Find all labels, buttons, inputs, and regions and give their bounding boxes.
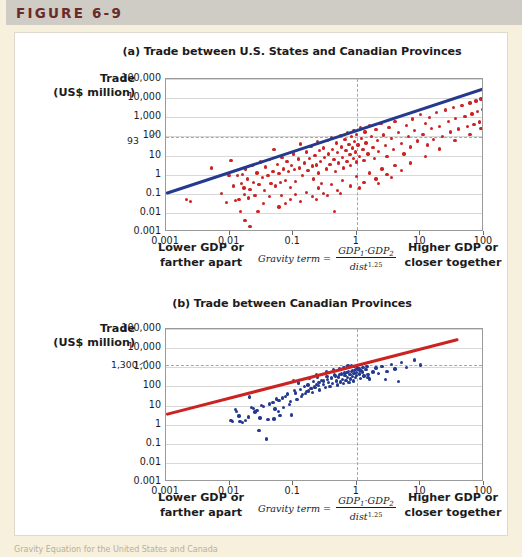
scatter-point xyxy=(362,159,365,162)
scatter-point xyxy=(220,192,223,195)
scatter-point xyxy=(284,202,287,205)
scatter-point xyxy=(243,219,246,222)
gridline xyxy=(166,348,482,349)
scatter-point xyxy=(374,177,377,180)
scatter-point xyxy=(400,142,403,145)
scatter-point xyxy=(324,386,327,389)
lower-label-line2: farther apart xyxy=(143,506,259,521)
scatter-point xyxy=(416,139,419,142)
scatter-point xyxy=(189,200,192,203)
scatter-point xyxy=(332,158,335,161)
scatter-point xyxy=(347,143,350,146)
scatter-point xyxy=(303,161,306,164)
scatter-point xyxy=(476,110,479,113)
scatter-point xyxy=(326,194,329,197)
panel-b-lower-label: Lower GDP or farther apart xyxy=(143,491,259,520)
x-tick-mark xyxy=(483,231,484,235)
scatter-point xyxy=(355,175,358,178)
scatter-point xyxy=(421,133,424,136)
scatter-point xyxy=(468,101,471,104)
scatter-point xyxy=(185,198,188,201)
gravity-denominator: dist1.25 xyxy=(350,260,383,272)
scatter-point xyxy=(352,379,355,382)
scatter-point xyxy=(349,184,352,187)
scatter-point xyxy=(338,373,341,376)
scatter-point xyxy=(306,383,309,386)
scatter-point xyxy=(426,143,429,146)
scatter-point xyxy=(337,161,340,164)
scatter-point xyxy=(360,137,363,140)
scatter-point xyxy=(342,166,345,169)
scatter-point xyxy=(392,148,395,151)
scatter-point xyxy=(257,429,260,432)
higher-label-line2: closer together xyxy=(393,256,513,271)
scatter-point xyxy=(430,127,433,130)
panel-a: (a) Trade between U.S. States and Canadi… xyxy=(15,33,509,285)
scatter-point xyxy=(393,164,396,167)
scatter-point xyxy=(247,415,250,418)
scatter-point xyxy=(278,414,281,417)
scatter-point xyxy=(268,195,271,198)
scatter-point xyxy=(478,120,481,123)
scatter-point xyxy=(261,176,264,179)
scatter-point xyxy=(400,169,403,172)
regression-line xyxy=(166,88,483,196)
dist-text: dist xyxy=(350,511,368,522)
scatter-point xyxy=(348,153,351,156)
panel-a-higher-label: Higher GDP or closer together xyxy=(393,241,513,270)
scatter-point xyxy=(470,112,473,115)
scatter-point xyxy=(385,173,388,176)
scatter-point xyxy=(334,374,337,377)
scatter-point xyxy=(279,181,282,184)
scatter-point xyxy=(363,130,366,133)
x-tick-mark xyxy=(356,231,357,235)
gridline xyxy=(166,79,482,80)
scatter-point xyxy=(284,179,287,182)
scatter-point xyxy=(457,127,460,130)
scatter-point xyxy=(285,160,288,163)
scatter-point xyxy=(390,137,393,140)
scatter-point xyxy=(244,419,247,422)
gridline xyxy=(166,329,482,330)
gravity-term-label: Gravity term xyxy=(258,253,320,264)
higher-label-line1: Higher GDP or xyxy=(393,241,513,256)
scatter-point xyxy=(277,399,280,402)
gravity-denominator: dist1.25 xyxy=(350,510,383,522)
scatter-point xyxy=(479,127,482,130)
panel-a-lower-label: Lower GDP or farther apart xyxy=(143,241,259,270)
panel-b-caption-row: Lower GDP or farther apart Gravity term … xyxy=(15,491,509,531)
lower-label-line2: farther apart xyxy=(143,256,259,271)
gridline xyxy=(166,406,482,407)
scatter-point xyxy=(428,116,431,119)
scatter-point xyxy=(331,382,334,385)
x-tick-mark xyxy=(483,481,484,485)
scatter-point xyxy=(366,376,369,379)
y-tick-label: 100,000 xyxy=(101,73,161,83)
scatter-point xyxy=(289,198,292,201)
scatter-point xyxy=(377,182,380,185)
scatter-point xyxy=(344,149,347,152)
x-tick-mark xyxy=(229,231,230,235)
scatter-point xyxy=(322,379,325,382)
gravity-equals-sign: = xyxy=(323,253,331,264)
scatter-point xyxy=(447,120,450,123)
panel-b: (b) Trade between Canadian Provinces Tra… xyxy=(15,285,509,537)
scatter-point xyxy=(272,148,275,151)
y-annotation-value: 1,300 xyxy=(111,359,138,370)
higher-label-line2: closer together xyxy=(393,506,513,521)
y-tick-label: 10,000 xyxy=(101,92,161,102)
scatter-point xyxy=(402,152,405,155)
scatter-point xyxy=(358,155,361,158)
scatter-point xyxy=(374,128,377,131)
scatter-point xyxy=(384,144,387,147)
scatter-point xyxy=(235,410,238,413)
panel-a-gravity-formula: Gravity term = GDP1·GDP2 dist1.25 xyxy=(258,245,398,272)
scatter-point xyxy=(385,370,388,373)
scatter-point xyxy=(481,108,483,111)
scatter-point xyxy=(272,417,275,420)
y-tick-label: 100 xyxy=(101,380,161,390)
scatter-point xyxy=(336,383,339,386)
gridline xyxy=(166,117,482,118)
y-tick-label: 10,000 xyxy=(101,342,161,352)
y-tick-label: 0.1 xyxy=(101,188,161,198)
